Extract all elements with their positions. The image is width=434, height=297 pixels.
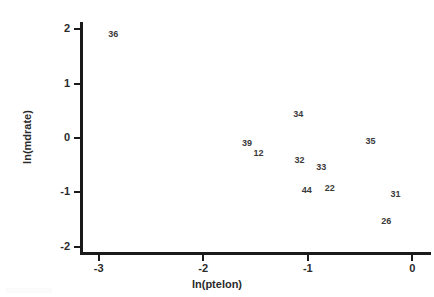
data-point-44: 44 — [302, 185, 312, 195]
data-point-32: 32 — [294, 155, 304, 165]
data-point-36: 36 — [108, 29, 118, 39]
data-point-26: 26 — [381, 216, 391, 226]
data-point-22: 22 — [325, 183, 335, 193]
data-point-33: 33 — [316, 162, 326, 172]
data-point-34: 34 — [293, 109, 303, 119]
plot-area: 3634391235323344223126 — [0, 0, 434, 297]
data-point-35: 35 — [365, 136, 375, 146]
scan-artifact — [6, 288, 52, 293]
data-point-12: 12 — [254, 148, 264, 158]
scatter-plot-figure: 210-1-2 -3-2-10 ln(ptelon) ln(mdrate) 36… — [0, 0, 434, 297]
data-point-31: 31 — [391, 189, 401, 199]
data-point-39: 39 — [242, 138, 252, 148]
